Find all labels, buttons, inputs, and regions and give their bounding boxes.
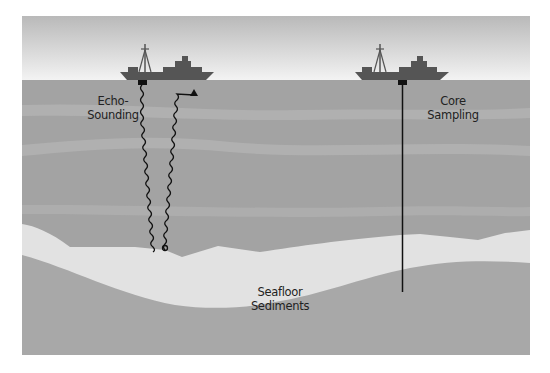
core-drill-head bbox=[398, 80, 407, 85]
label-seafloor-sediments: Seafloor Sediments bbox=[240, 285, 320, 313]
label-core-sampling: Core Sampling bbox=[418, 94, 488, 122]
label-core-line1: Core bbox=[418, 94, 488, 108]
label-echo-line2: Sounding bbox=[78, 108, 148, 122]
label-sed-line2: Sediments bbox=[240, 299, 320, 313]
transducer-left bbox=[138, 80, 147, 85]
diagram-canvas bbox=[0, 0, 550, 373]
label-core-line2: Sampling bbox=[418, 108, 488, 122]
label-echo-sounding: Echo- Sounding bbox=[78, 94, 148, 122]
label-sed-line1: Seafloor bbox=[240, 285, 320, 299]
label-echo-line1: Echo- bbox=[78, 94, 148, 108]
sky bbox=[22, 16, 530, 80]
